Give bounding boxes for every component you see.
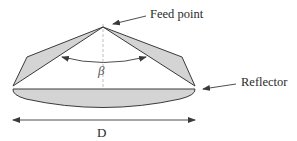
reflector-dish: [13, 89, 195, 108]
reflector-pointer: [203, 84, 236, 89]
right-feed-strut: [103, 27, 195, 86]
angle-arc: [62, 57, 146, 63]
left-feed-strut: [13, 27, 103, 86]
feed-point-pointer: [113, 16, 146, 24]
feed-point-label: Feed point: [150, 8, 203, 21]
diameter-label: D: [97, 126, 106, 139]
diagram-graphics: [0, 0, 297, 141]
reflector-label: Reflector: [241, 76, 288, 89]
angle-beta-label: β: [98, 64, 104, 77]
antenna-diagram: Feed point Reflector β D: [0, 0, 297, 141]
